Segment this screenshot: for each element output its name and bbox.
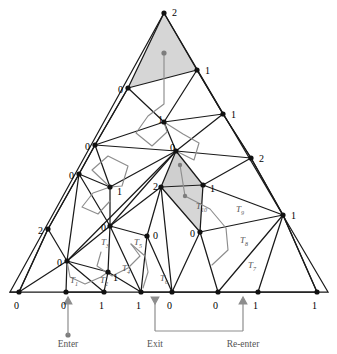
start-dot-top bbox=[161, 50, 166, 55]
vertex-dot-v-hub bbox=[64, 258, 69, 263]
vertex-label-v-mid-1: 1 bbox=[158, 114, 163, 125]
vertex-label-v-hub: 0 bbox=[57, 257, 62, 268]
vertex-label-v-right-3: 2 bbox=[259, 153, 264, 164]
simplex-label-subscript: 10 bbox=[201, 207, 207, 213]
vertex-dot-v-far-right bbox=[280, 212, 285, 217]
vertex-label-b5: 0 bbox=[213, 300, 218, 311]
vertex-dot-v-left-1 bbox=[125, 85, 130, 90]
vertex-dot-v-left-3 bbox=[76, 171, 81, 176]
vertex-label-v-left-4: 2 bbox=[38, 225, 43, 236]
vertex-label-v-low-mid: 0 bbox=[153, 230, 158, 241]
vertex-dot-v-inner-1 bbox=[105, 269, 110, 274]
simplex-label-subscript: 8 bbox=[245, 241, 248, 247]
vertex-dot-b1 bbox=[63, 289, 68, 294]
vertex-dot-b0 bbox=[16, 289, 21, 294]
flow-arrows bbox=[64, 297, 247, 335]
vertex-label-v-left-2: 0 bbox=[85, 141, 90, 152]
algorithm-path bbox=[67, 53, 228, 288]
simplex-label-T9: T9 bbox=[236, 204, 244, 216]
vertex-label-apex: 2 bbox=[172, 7, 177, 18]
vertex-label-v-mid-2: 2 bbox=[153, 181, 158, 192]
simplex-label-subscript: 1 bbox=[75, 281, 78, 287]
vertex-dot-apex bbox=[161, 10, 166, 15]
simplex-label-T7: T7 bbox=[248, 260, 257, 272]
vertex-dot-v-left-4 bbox=[45, 226, 50, 231]
simplex-label-subscript: 3 bbox=[105, 243, 109, 249]
vertex-dot-b3 bbox=[138, 289, 143, 294]
reenter-arrowhead bbox=[239, 297, 247, 304]
simplex-label-T3: T3 bbox=[101, 237, 109, 249]
vertex-label-v-low-left: 0 bbox=[101, 222, 106, 233]
vertex-dot-v-mid-2 bbox=[158, 184, 163, 189]
vertex-label-b4: 0 bbox=[167, 300, 172, 311]
caption-exit: Exit bbox=[147, 339, 163, 349]
exit-arrowhead bbox=[151, 297, 159, 304]
vertex-dot-v-low-left bbox=[107, 223, 112, 228]
simplex-label-T5: T5 bbox=[134, 237, 142, 249]
simplex-label-subscript: 7 bbox=[253, 266, 257, 272]
vertex-label-v-low-right: 0 bbox=[190, 228, 195, 239]
vertex-dot-v-low-mid bbox=[144, 233, 149, 238]
vertex-label-v-center: 0 bbox=[170, 142, 175, 153]
caption-re-enter: Re-enter bbox=[227, 339, 261, 349]
vertex-dot-v-right-2 bbox=[220, 111, 225, 116]
path-left-lower bbox=[82, 187, 110, 214]
sperner-triangulation-figure: 201101020121200001100110011 T1T2T3T4T5T6… bbox=[0, 0, 337, 354]
vertex-label-v-left-3: 0 bbox=[69, 170, 74, 181]
vertex-label-v-mid-3: 1 bbox=[210, 183, 215, 194]
vertex-label-v-in-left: 1 bbox=[117, 186, 122, 197]
simplex-label-T8: T8 bbox=[240, 235, 248, 247]
vertex-dot-v-in-left bbox=[107, 184, 112, 189]
vertex-dot-b2 bbox=[101, 289, 106, 294]
dot-inner-1 bbox=[178, 163, 182, 167]
vertex-label-b6: 1 bbox=[253, 300, 258, 311]
vertex-label-v-left-1: 0 bbox=[118, 84, 123, 95]
simplex-label-subscript: 9 bbox=[241, 210, 244, 216]
vertex-label-v-right-2: 1 bbox=[231, 109, 236, 120]
vertex-dot-v-mid-3 bbox=[200, 182, 205, 187]
simplex-label-T6: T6 bbox=[160, 273, 168, 285]
vertex-dot-b5 bbox=[215, 289, 220, 294]
vertex-dot-b6 bbox=[255, 289, 260, 294]
simplex-label-subscript: 6 bbox=[165, 279, 168, 285]
vertex-label-v-far-right: 1 bbox=[291, 210, 296, 221]
flow-captions: EnterExitRe-enter bbox=[58, 339, 260, 349]
vertex-dot-b7 bbox=[314, 289, 319, 294]
vertex-dot-v-right-1 bbox=[194, 67, 199, 72]
vertex-label-v-right-1: 1 bbox=[205, 65, 210, 76]
vertex-label-b0: 0 bbox=[14, 300, 19, 311]
simplex-label-subscript: 2 bbox=[105, 281, 108, 287]
vertex-dot-v-left-2 bbox=[92, 142, 97, 147]
simplex-label-subscript: 4 bbox=[127, 269, 130, 275]
simplex-label-subscript: 5 bbox=[139, 243, 142, 249]
vertex-dot-v-right-3 bbox=[248, 155, 253, 160]
vertex-label-b3: 1 bbox=[136, 300, 141, 311]
dot-inner-2 bbox=[183, 194, 187, 198]
vertex-dot-v-low-right bbox=[197, 229, 202, 234]
caption-enter: Enter bbox=[58, 339, 79, 349]
vertex-label-b1: 0 bbox=[61, 300, 66, 311]
vertex-dot-b4 bbox=[169, 289, 174, 294]
simplex-label-T1: T1 bbox=[70, 275, 78, 287]
vertex-label-v-inner-1: 1 bbox=[113, 272, 118, 283]
vertex-label-b2: 1 bbox=[99, 300, 104, 311]
vertex-label-b7: 1 bbox=[312, 300, 317, 311]
